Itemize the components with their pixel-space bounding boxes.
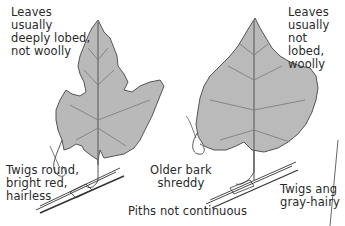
bark-description: Older bark shreddy — [150, 164, 212, 190]
right-leaf-description: Leaves usually not lobed, woolly — [288, 6, 345, 71]
right-twig-description: Twigs ang gray-hairy — [280, 183, 340, 209]
pith-description: Piths not continuous — [128, 205, 247, 218]
left-leaf-description: Leaves usually deeply lobed, not woolly — [11, 6, 90, 58]
left-twig-description: Twigs round, bright red, hairless — [6, 164, 79, 203]
